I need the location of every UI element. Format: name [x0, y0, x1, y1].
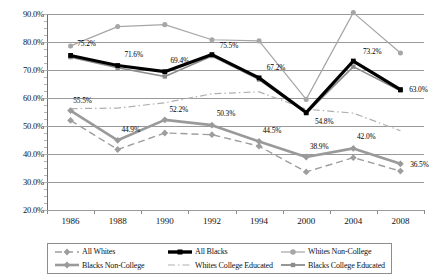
line-chart: 20.0%30.0%40.0%50.0%60.0%70.0%80.0%90.0%…: [0, 0, 433, 280]
y-tick-label: 80.0%: [23, 38, 44, 47]
data-point-label: 75.5%: [220, 42, 239, 50]
legend-label: All Whites: [82, 247, 115, 256]
x-tick-label: 1994: [250, 216, 268, 227]
data-point-marker: [397, 168, 404, 175]
y-tick-label: 90.0%: [23, 10, 44, 19]
data-point-marker: [304, 110, 309, 115]
series-whites-college-educated: [71, 92, 401, 131]
x-tick-label: 2004: [344, 216, 362, 227]
gridline: [47, 210, 424, 211]
data-point-marker: [114, 146, 121, 153]
x-tick-label: 2000: [297, 216, 315, 227]
y-tick-label: 30.0%: [23, 178, 44, 187]
data-point-marker: [162, 69, 167, 74]
data-point-marker: [350, 145, 357, 152]
data-point-label: 63.0%: [409, 86, 428, 94]
legend-label: All Blacks: [195, 247, 228, 256]
data-point-marker: [115, 24, 120, 29]
data-point-marker: [68, 43, 73, 48]
y-tick-label: 70.0%: [23, 66, 44, 75]
data-point-marker: [303, 169, 310, 176]
legend-item-blacks-college-educated[interactable]: Blacks College Educated: [276, 260, 389, 270]
data-point-label: 50.3%: [217, 110, 236, 118]
data-point-label: 42.0%: [357, 133, 376, 141]
data-point-label: 67.2%: [267, 64, 286, 72]
legend-label: Blacks Non-College: [82, 261, 144, 270]
data-point-marker: [257, 75, 262, 80]
legend-item-whites-non-college[interactable]: Whites Non-College: [276, 247, 389, 257]
legend-label: Blacks College Educated: [308, 261, 385, 270]
data-point-marker: [210, 52, 215, 57]
data-point-marker: [67, 117, 74, 124]
data-point-marker: [68, 53, 73, 58]
data-point-marker: [256, 138, 263, 145]
data-point-marker: [209, 131, 216, 138]
plot-area: 75.2%71.6%69.4%75.5%67.2%54.8%73.2%63.0%…: [47, 14, 424, 210]
x-tick-label: 1988: [109, 216, 127, 227]
data-point-marker: [304, 97, 309, 102]
x-tick-label: 2008: [391, 216, 409, 227]
data-point-marker: [209, 37, 214, 42]
series-all-blacks: [68, 52, 403, 115]
data-point-label: 52.2%: [170, 106, 189, 114]
data-point-label: 75.2%: [77, 40, 96, 48]
chart-legend: All WhitesAll BlacksWhites Non-CollegeBl…: [47, 243, 392, 274]
data-point-marker: [398, 50, 403, 55]
x-tick-label: 1990: [156, 216, 174, 227]
legend-swatch: [167, 247, 193, 257]
x-tick-label: 1986: [62, 216, 80, 227]
series-line: [71, 13, 401, 100]
y-tick-label: 20.0%: [23, 206, 44, 215]
legend-item-blacks-non-college[interactable]: Blacks Non-College: [50, 260, 163, 270]
data-point-marker: [257, 38, 262, 43]
data-point-marker: [64, 248, 71, 255]
plot-wrapper: 20.0%30.0%40.0%50.0%60.0%70.0%80.0%90.0%…: [0, 0, 433, 240]
data-point-label: 55.5%: [73, 97, 92, 105]
legend-label: Whites College Educated: [195, 261, 273, 270]
data-point-label: 54.8%: [315, 118, 334, 126]
data-point-marker: [351, 59, 356, 64]
legend-label: Whites Non-College: [308, 247, 371, 256]
y-tick-label: 50.0%: [23, 122, 44, 131]
x-tick-label: 1992: [203, 216, 221, 227]
data-point-marker: [398, 87, 403, 92]
y-tick-label: 60.0%: [23, 94, 44, 103]
data-point-label: 69.4%: [171, 57, 190, 65]
data-point-label: 73.2%: [363, 48, 382, 56]
legend-item-all-blacks[interactable]: All Blacks: [163, 247, 276, 257]
data-point-marker: [351, 10, 356, 15]
series-line: [71, 120, 401, 172]
x-tick-mark: [424, 210, 425, 214]
legend-item-all-whites[interactable]: All Whites: [50, 247, 163, 257]
legend-item-whites-college-educated[interactable]: Whites College Educated: [163, 260, 276, 270]
data-point-marker: [350, 154, 357, 161]
data-point-marker: [303, 154, 310, 161]
data-point-marker: [397, 160, 404, 167]
data-point-label: 36.5%: [410, 161, 429, 169]
data-point-marker: [115, 63, 120, 68]
y-axis: 20.0%30.0%40.0%50.0%60.0%70.0%80.0%90.0%: [0, 0, 47, 240]
legend-swatch: [280, 260, 306, 270]
data-point-marker: [178, 249, 183, 254]
legend-swatch: [167, 260, 193, 270]
series-line: [71, 92, 401, 131]
data-point-marker: [291, 263, 295, 267]
legend-swatch: [54, 260, 80, 270]
data-point-marker: [64, 262, 71, 269]
legend-swatch: [54, 247, 80, 257]
data-point-marker: [290, 249, 296, 255]
data-point-marker: [351, 64, 355, 68]
data-point-marker: [162, 22, 167, 27]
data-point-label: 71.6%: [124, 51, 143, 59]
series-whites-non-college: [68, 10, 403, 102]
legend-swatch: [280, 247, 306, 257]
y-tick-label: 40.0%: [23, 150, 44, 159]
series-line: [71, 111, 401, 164]
data-point-marker: [161, 130, 168, 137]
data-point-label: 38.9%: [310, 143, 329, 151]
data-point-marker: [163, 74, 167, 78]
x-axis: 19861988199019921994200020042008: [47, 216, 424, 234]
data-point-label: 44.9%: [121, 126, 140, 134]
data-point-marker: [209, 122, 216, 129]
data-point-label: 44.5%: [263, 127, 282, 135]
